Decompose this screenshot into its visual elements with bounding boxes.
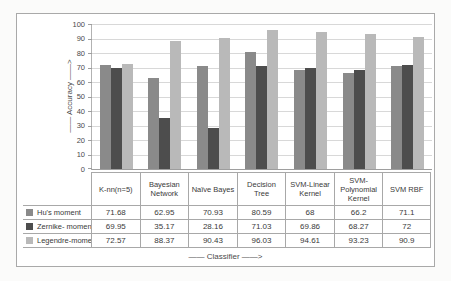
table-value-r3-c6: 93.23 — [334, 234, 383, 248]
bar-group-7 — [383, 24, 432, 169]
y-axis-tick-40 — [88, 111, 92, 112]
bar-series2-cat6 — [354, 70, 365, 169]
table-value-r1-c1: 71.68 — [91, 206, 140, 220]
table-header-2: Bayesian Network — [140, 172, 189, 206]
table-row-label-1: Hu's moment — [23, 206, 91, 220]
bar-series3-cat7 — [413, 37, 424, 169]
table-value-r2-c5: 69.86 — [285, 220, 334, 234]
plot-area — [91, 24, 432, 170]
y-axis-tick-60 — [88, 82, 92, 83]
bar-series1-cat3 — [197, 66, 208, 169]
bar-group-4 — [238, 24, 287, 169]
table-value-r2-c7: 72 — [382, 220, 431, 234]
y-tick-label-10: 10 — [55, 150, 85, 159]
table-row-label-3: Legendre-moment — [23, 234, 91, 248]
y-axis-tick-90 — [88, 39, 92, 40]
y-axis-tick-50 — [88, 97, 92, 98]
table-value-r2-c3: 28.16 — [188, 220, 237, 234]
bar-series1-cat4 — [245, 52, 256, 169]
bar-series1-cat6 — [343, 73, 354, 169]
y-tick-label-90: 90 — [55, 34, 85, 43]
table-value-r1-c2: 62.95 — [140, 206, 189, 220]
table-value-r2-c1: 69.95 — [91, 220, 140, 234]
legend-swatch-3 — [26, 237, 33, 244]
y-axis-tick-100 — [88, 24, 92, 25]
y-axis-tick-labels: 0102030405060708090100 — [55, 24, 85, 169]
bar-series1-cat5 — [294, 70, 305, 169]
table-value-r3-c4: 96.03 — [237, 234, 286, 248]
table-header-3: Naïve Bayes — [188, 172, 237, 206]
table-header-6: SVM-Polynomial Kernel — [334, 172, 383, 206]
bar-series1-cat2 — [148, 78, 159, 169]
y-axis-tick-10 — [88, 155, 92, 156]
y-axis-tick-70 — [88, 68, 92, 69]
y-tick-label-20: 20 — [55, 136, 85, 145]
table-value-r3-c5: 94.61 — [285, 234, 334, 248]
table-header-1: K-nn(n=5) — [91, 172, 140, 206]
bar-series1-cat1 — [100, 65, 111, 169]
bar-series2-cat5 — [305, 68, 316, 169]
table-value-r1-c6: 66.2 — [334, 206, 383, 220]
table-value-r3-c2: 88.37 — [140, 234, 189, 248]
y-tick-label-60: 60 — [55, 78, 85, 87]
bar-series1-cat7 — [391, 66, 402, 169]
data-table: K-nn(n=5)Bayesian NetworkNaïve BayesDeci… — [23, 172, 431, 248]
y-axis-tick-30 — [88, 126, 92, 127]
bar-series3-cat5 — [316, 32, 327, 169]
bar-group-5 — [286, 24, 335, 169]
bar-series3-cat3 — [219, 38, 230, 169]
bar-series3-cat6 — [365, 34, 376, 169]
bar-group-6 — [335, 24, 384, 169]
table-value-r1-c3: 70.93 — [188, 206, 237, 220]
table-value-r1-c7: 71.1 — [382, 206, 431, 220]
y-axis-tick-20 — [88, 140, 92, 141]
table-value-r2-c2: 35.17 — [140, 220, 189, 234]
table-row-label-2: Zernike- moment — [23, 220, 91, 234]
bar-group-1 — [92, 24, 141, 169]
y-tick-label-70: 70 — [55, 63, 85, 72]
y-tick-label-80: 80 — [55, 49, 85, 58]
bar-group-3 — [189, 24, 238, 169]
table-header-5: SVM-Linear Kernel — [285, 172, 334, 206]
y-tick-label-100: 100 — [55, 20, 85, 29]
y-axis-tick-80 — [88, 53, 92, 54]
bar-series3-cat4 — [267, 30, 278, 169]
series-name-3: Legendre-moment — [37, 236, 91, 245]
screenshot-root: —— Accuracy ——> 0102030405060708090100 K… — [0, 0, 451, 281]
table-header-4: Decision Tree — [237, 172, 286, 206]
legend-swatch-2 — [26, 223, 33, 230]
table-value-r2-c4: 71.03 — [237, 220, 286, 234]
bar-series3-cat1 — [122, 64, 133, 169]
bar-series2-cat2 — [159, 118, 170, 169]
table-value-r1-c4: 80.59 — [237, 206, 286, 220]
table-value-r3-c3: 90.43 — [188, 234, 237, 248]
series-name-1: Hu's moment — [37, 208, 81, 217]
bar-series2-cat7 — [402, 65, 413, 169]
y-tick-label-50: 50 — [55, 92, 85, 101]
table-value-r3-c7: 90.9 — [382, 234, 431, 248]
bar-series2-cat3 — [208, 128, 219, 169]
bar-series2-cat4 — [256, 66, 267, 169]
y-tick-label-40: 40 — [55, 107, 85, 116]
table-header-7: SVM RBF — [382, 172, 431, 206]
chart-figure: —— Accuracy ——> 0102030405060708090100 K… — [16, 13, 435, 267]
bar-series3-cat2 — [170, 41, 181, 169]
y-tick-label-30: 30 — [55, 121, 85, 130]
series-name-2: Zernike- moment — [37, 222, 91, 231]
table-value-r1-c5: 68 — [285, 206, 334, 220]
y-axis-tick-0 — [88, 168, 92, 169]
table-value-r3-c1: 72.57 — [91, 234, 140, 248]
x-axis-title: —— Classifier ——> — [17, 252, 434, 261]
bar-group-2 — [141, 24, 190, 169]
bar-series2-cat1 — [111, 68, 122, 169]
table-corner-cell — [23, 172, 91, 206]
legend-swatch-1 — [26, 209, 33, 216]
table-value-r2-c6: 68.27 — [334, 220, 383, 234]
